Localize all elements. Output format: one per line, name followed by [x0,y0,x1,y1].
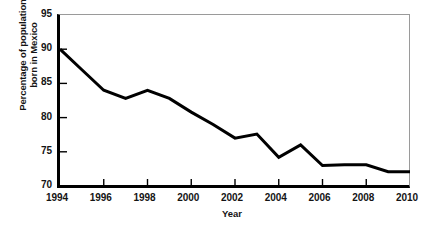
x-tick-label-2004: 2004 [256,193,296,203]
x-tick-label-2010: 2010 [387,193,427,203]
x-tick-label-2006: 2006 [300,193,340,203]
x-tick-label-2002: 2002 [212,193,252,203]
x-tick-label-2000: 2000 [168,193,208,203]
x-tick-label-1994: 1994 [37,193,77,203]
y-tick-label-80: 80 [26,112,52,122]
y-tick-label-70: 70 [26,180,52,190]
plot-area [57,14,410,188]
x-tick-label-1998: 1998 [125,193,165,203]
data-line-series-1 [60,49,410,171]
line-chart-svg [60,15,410,186]
y-tick-label-90: 90 [26,43,52,53]
y-tick-label-85: 85 [26,77,52,87]
y-tick-label-75: 75 [26,146,52,156]
x-tick-label-2008: 2008 [343,193,383,203]
chart-figure: Percentage of population born in Mexico … [0,0,438,235]
x-axis-label: Year [52,208,412,219]
y-tick-label-95: 95 [26,9,52,19]
x-tick-label-1996: 1996 [81,193,121,203]
